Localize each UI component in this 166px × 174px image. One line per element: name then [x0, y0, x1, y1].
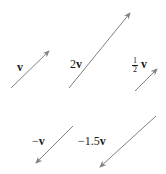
label-2v-variable: v	[76, 57, 82, 71]
label-neg-v-variable: v	[39, 134, 45, 148]
label-2v: 2v	[70, 58, 82, 70]
fraction-denominator: 2	[133, 66, 137, 74]
label-neg-1.5v: −1.5v	[78, 135, 106, 147]
label-v: v	[17, 61, 23, 73]
label-neg-1.5v-variable: v	[100, 134, 106, 148]
vector-neg-1.5v-arrow	[100, 116, 156, 167]
label-half-v-variable: v	[141, 57, 147, 71]
label-neg-1.5v-coefficient: −1.5	[78, 134, 100, 148]
label-half-v-fraction: 1 2	[132, 57, 138, 74]
label-half-v: 1 2 v	[132, 57, 147, 74]
label-neg-v-coefficient: −	[32, 134, 39, 148]
label-neg-v: −v	[32, 135, 45, 147]
label-v-variable: v	[17, 60, 23, 74]
vector-2v-arrow	[69, 13, 130, 88]
